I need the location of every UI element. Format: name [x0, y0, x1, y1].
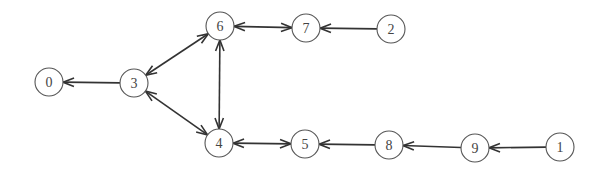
- edge-3-6: [146, 34, 209, 76]
- node-label: 7: [303, 21, 310, 36]
- edge-line: [146, 34, 209, 76]
- graph-diagram: 0367245891: [0, 0, 606, 173]
- edge-8-5: [319, 140, 375, 148]
- node-2: 2: [377, 15, 405, 43]
- edge-line: [319, 144, 375, 145]
- edge-4-5: [233, 139, 291, 148]
- node-label: 4: [216, 136, 223, 151]
- node-label: 2: [388, 22, 395, 37]
- edge-line: [403, 145, 461, 147]
- graph-svg: 0367245891: [0, 0, 606, 173]
- node-label: 6: [217, 19, 224, 34]
- node-label: 8: [386, 138, 393, 153]
- edge-line: [489, 147, 546, 148]
- edge-2-7: [320, 24, 377, 32]
- node-7: 7: [292, 14, 320, 42]
- edge-line: [320, 28, 377, 29]
- node-9: 9: [461, 134, 489, 162]
- edge-line: [233, 143, 291, 144]
- edge-9-8: [403, 142, 461, 150]
- node-1: 1: [546, 133, 574, 161]
- edge-3-0: [63, 78, 120, 86]
- edge-line: [234, 26, 292, 27]
- arrowhead-icon: [197, 34, 208, 44]
- node-0: 0: [35, 68, 63, 96]
- node-3: 3: [120, 69, 148, 97]
- node-label: 0: [46, 75, 53, 90]
- node-5: 5: [291, 130, 319, 158]
- node-label: 3: [131, 76, 138, 91]
- edge-3-4: [145, 91, 207, 135]
- edge-1-9: [489, 144, 546, 152]
- edge-line: [145, 91, 207, 135]
- node-6: 6: [206, 12, 234, 40]
- nodes-layer: 0367245891: [35, 12, 574, 162]
- edge-6-4: [215, 40, 224, 129]
- arrowhead-icon: [146, 66, 157, 76]
- node-label: 9: [472, 141, 479, 156]
- node-8: 8: [375, 131, 403, 159]
- edge-line: [63, 82, 120, 83]
- edge-line: [219, 40, 220, 129]
- node-4: 4: [205, 129, 233, 157]
- node-label: 5: [302, 137, 309, 152]
- node-label: 1: [557, 140, 564, 155]
- edge-6-7: [234, 22, 292, 31]
